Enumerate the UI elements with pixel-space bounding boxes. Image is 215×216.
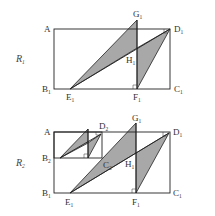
point-label-e1: E1 — [65, 197, 74, 208]
point-label-a: A — [44, 127, 51, 137]
shaded-small-triangle-left — [60, 129, 88, 158]
figure-r2: R2 A B2 C2 D2 G1 D1 H1 B1 E1 F1 C1 — [15, 113, 183, 208]
point-label-d2: D2 — [99, 121, 109, 132]
right-angle-mark-f2 — [84, 154, 88, 158]
point-label-c1: C1 — [173, 188, 182, 199]
point-label-b2: B2 — [42, 153, 51, 164]
right-angle-mark-f1 — [133, 85, 137, 89]
figure-label-r1: R1 — [15, 53, 25, 65]
diagram-canvas: R1 A B1 C1 D1 E1 F1 G1 H1 R2 A — [0, 0, 215, 216]
point-label-g1: G1 — [132, 113, 142, 124]
shaded-triangle-h1-d1-f1 — [137, 29, 170, 89]
right-angle-mark-f1 — [132, 189, 136, 193]
point-label-d1: D1 — [173, 127, 183, 138]
point-label-c1: C1 — [174, 84, 183, 95]
point-label-g1: G1 — [133, 9, 143, 20]
point-label-b1: B1 — [42, 84, 51, 95]
point-label-f1: F1 — [132, 197, 140, 208]
figure-r1: R1 A B1 C1 D1 E1 F1 G1 H1 — [15, 9, 184, 103]
point-label-a: A — [44, 24, 51, 34]
point-label-h1: H1 — [126, 55, 136, 66]
point-label-b1: B1 — [42, 188, 51, 199]
point-label-h1: H1 — [125, 159, 135, 170]
shaded-triangle-h1-d1-f1 — [136, 133, 169, 193]
point-label-e1: E1 — [66, 92, 75, 103]
point-label-f1: F1 — [133, 92, 141, 103]
figure-label-r2: R2 — [15, 157, 25, 169]
point-label-d1: D1 — [174, 24, 184, 35]
